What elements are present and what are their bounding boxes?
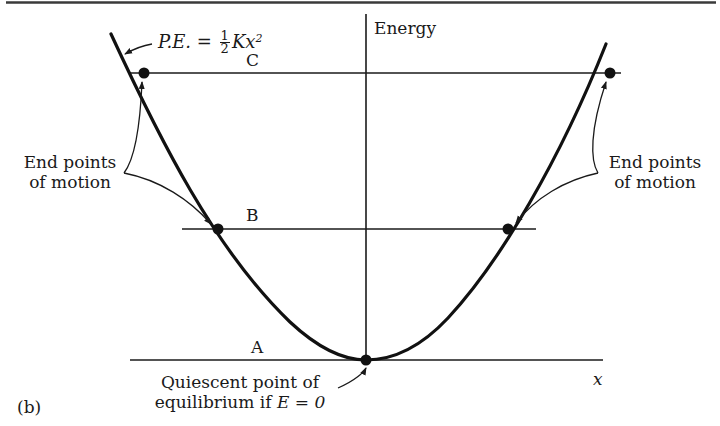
- equilibrium-arrow: [338, 368, 366, 388]
- formula-suffix: Kx: [232, 31, 256, 52]
- equilibrium-condition: E = 0: [277, 392, 325, 412]
- left-endpoints-line1: End points: [15, 152, 125, 172]
- endpoint-dot-c-right: [605, 68, 616, 79]
- energy-axis-label: Energy: [374, 18, 436, 38]
- level-label-b: B: [246, 205, 259, 225]
- level-label-a: A: [251, 337, 263, 357]
- left-endpoints-annotation: End points of motion: [15, 152, 125, 192]
- panel-label: (b): [17, 397, 41, 417]
- fraction-denominator: 2: [220, 43, 230, 55]
- equilibrium-annotation: Quiescent point of equilibrium if E = 0: [140, 372, 340, 412]
- figure-canvas: Energy P.E. = 1 2 Kx2 C B A x End points…: [0, 0, 720, 426]
- potential-energy-curve: [111, 34, 606, 360]
- right-arrow-to-b: [516, 173, 598, 223]
- equilibrium-dot: [361, 355, 372, 366]
- formula-exponent: 2: [255, 32, 262, 45]
- right-endpoints-annotation: End points of motion: [600, 152, 710, 192]
- equilibrium-line1: Quiescent point of: [140, 372, 340, 392]
- endpoint-dot-b-right: [503, 224, 514, 235]
- level-label-c: C: [246, 50, 259, 70]
- left-arrow-to-b: [124, 173, 211, 224]
- formula-prefix: P.E. =: [158, 31, 212, 52]
- endpoint-dot-c-left: [139, 68, 150, 79]
- endpoint-dot-b-left: [213, 224, 224, 235]
- equilibrium-line2: equilibrium if E = 0: [140, 392, 340, 412]
- x-axis-label: x: [593, 369, 603, 389]
- formula-fraction: 1 2: [220, 30, 230, 55]
- diagram-graphics: [0, 0, 720, 426]
- curve-label-arrow: [125, 44, 152, 54]
- equilibrium-line2-text: equilibrium if: [155, 392, 272, 412]
- left-endpoints-line2: of motion: [15, 172, 125, 192]
- right-endpoints-line2: of motion: [600, 172, 710, 192]
- right-endpoints-line1: End points: [600, 152, 710, 172]
